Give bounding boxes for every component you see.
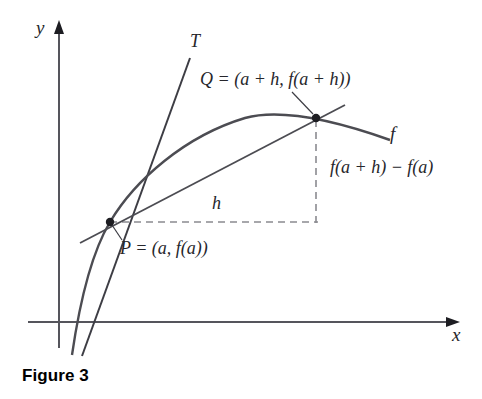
x-axis-label: x — [452, 325, 460, 344]
point-q-marker — [312, 114, 320, 122]
y-axis-label: y — [36, 18, 44, 37]
run-h-label: h — [212, 194, 221, 212]
function-curve — [72, 114, 390, 355]
function-curve-label: f — [390, 124, 395, 143]
point-q-label: Q = (a + h, f(a + h)) — [200, 70, 350, 88]
point-p-label: P = (a, f(a)) — [120, 239, 208, 257]
calculus-secant-tangent-diagram — [0, 0, 482, 399]
y-axis — [54, 20, 64, 348]
figure-container: y x T f Q = (a + h, f(a + h)) P = (a, f(… — [0, 0, 482, 399]
tangent-line-label: T — [190, 32, 200, 50]
point-p-marker — [106, 218, 114, 226]
y-axis-arrowhead — [54, 20, 64, 34]
figure-caption: Figure 3 — [22, 366, 89, 386]
rise-difference-label: f(a + h) − f(a) — [330, 158, 433, 176]
q-label-leader-line — [292, 92, 313, 114]
tangent-line — [82, 58, 190, 356]
